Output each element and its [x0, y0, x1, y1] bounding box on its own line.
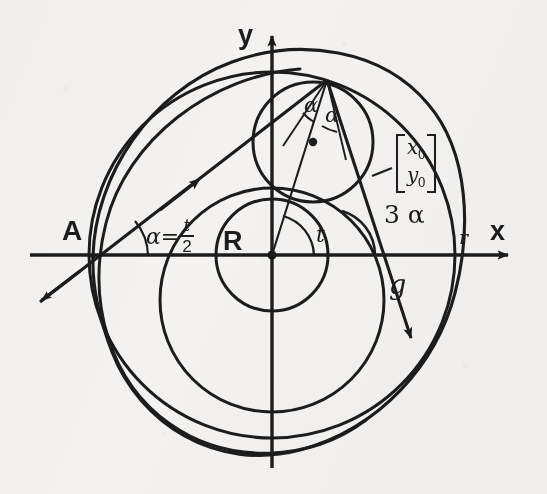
- axis-label-y: y: [238, 22, 253, 49]
- vector-y-symbol: y: [407, 163, 418, 187]
- axis-label-y-text: y: [238, 20, 253, 50]
- alpha-relation-numerator: t: [182, 217, 193, 235]
- vector-bracket: x0 y0: [396, 134, 436, 193]
- label-outer-radius-r-text: r: [459, 226, 468, 248]
- bracket-left: [396, 134, 405, 193]
- geometry-figure: y x A R r t α α 3 α g α= t 2 x0 y0: [0, 0, 547, 494]
- alpha-relation-lhs: α=: [146, 226, 179, 248]
- angle-arc-t-at-origin: [283, 216, 314, 255]
- label-point-vector: x0 y0: [396, 134, 436, 196]
- label-three-alpha: 3 α: [384, 202, 425, 227]
- point-a-marker: [91, 254, 96, 259]
- point-vector-leader: [372, 168, 392, 176]
- label-alpha-upper-left-text: α: [304, 93, 318, 117]
- vector-x-subscript: 0: [418, 147, 425, 162]
- label-point-a-text: A: [62, 215, 82, 246]
- alpha-relation-denominator: 2: [180, 237, 193, 255]
- label-angle-t: t: [316, 224, 325, 246]
- label-tangent-g-text: g: [389, 269, 406, 300]
- label-alpha-upper-right-text: α: [325, 103, 339, 127]
- vector-row-x: x0: [407, 137, 425, 161]
- axis-label-x: x: [490, 218, 505, 245]
- label-alpha-upper-left: α: [304, 95, 318, 116]
- alpha-relation-fraction: t 2: [180, 217, 193, 255]
- vector-y-subscript: 0: [418, 175, 425, 190]
- rolling-circle-center-dot: [309, 138, 317, 146]
- label-alpha-equals-t-over-2: α= t 2: [146, 218, 194, 256]
- label-alpha-upper-right: α: [325, 105, 339, 126]
- axis-label-x-text: x: [490, 216, 505, 246]
- label-outer-radius-r: r: [459, 228, 468, 247]
- label-base-circle-r: R: [223, 228, 243, 255]
- vector-row-y: y0: [407, 165, 425, 189]
- origin-point: [267, 250, 276, 259]
- label-base-circle-r-text: R: [223, 226, 243, 256]
- vector-x-symbol: x: [407, 135, 418, 159]
- label-tangent-g: g: [389, 271, 406, 298]
- label-three-alpha-text: 3 α: [384, 200, 425, 229]
- vector-column: x0 y0: [406, 134, 426, 193]
- label-angle-t-text: t: [316, 222, 325, 247]
- bracket-right: [427, 134, 436, 193]
- label-point-a: A: [62, 217, 82, 245]
